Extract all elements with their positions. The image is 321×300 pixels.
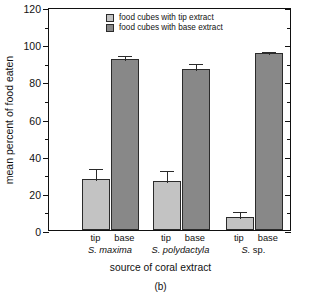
y-tick-100 [43, 46, 49, 47]
bar-smaxima-tip [82, 179, 110, 230]
y-tick-0 [43, 232, 49, 233]
x-bar-label-tip: tip [91, 234, 101, 243]
legend-label-tip: food cubes with tip extract [119, 14, 214, 22]
x-bar-label-tip: tip [234, 234, 244, 243]
y-tick-label-60: 60 [29, 115, 41, 126]
y-tick-70 [45, 102, 49, 103]
error-bar-cap [262, 52, 276, 53]
y-tick-110 [45, 28, 49, 29]
x-bar-label-base: base [114, 234, 134, 243]
bar-spolydactyla-base [182, 69, 210, 230]
legend-swatch-tip-icon [106, 14, 114, 22]
error-bar-cap [160, 171, 174, 172]
error-bar-cap [118, 56, 132, 57]
y-tick-label-80: 80 [29, 78, 41, 89]
y-axis-title: mean percent of food eaten [1, 8, 17, 231]
x-bar-label-base: base [185, 234, 205, 243]
y-tick-30 [45, 176, 49, 177]
y-tick-right-80 [285, 83, 291, 84]
legend-label-base: food cubes with base extract [119, 24, 223, 32]
y-tick-right-50 [287, 139, 291, 140]
y-tick-label-100: 100 [23, 41, 41, 52]
y-tick-right-40 [285, 158, 291, 159]
x-group-label: S. maxima [88, 246, 132, 255]
y-tick-right-20 [285, 195, 291, 196]
plot-area: food cubes with tip extract food cubes w… [48, 8, 291, 231]
y-tick-80 [43, 83, 49, 84]
y-tick-right-60 [285, 121, 291, 122]
error-bar-cap [89, 169, 103, 170]
bar-smaxima-base [111, 59, 139, 230]
x-group-label: S. sp. [241, 246, 265, 255]
y-tick-label-120: 120 [23, 4, 41, 15]
y-tick-right-110 [287, 28, 291, 29]
x-bar-label-tip: tip [161, 234, 171, 243]
legend: food cubes with tip extract food cubes w… [106, 14, 223, 32]
y-tick-right-70 [287, 102, 291, 103]
y-tick-right-100 [285, 46, 291, 47]
error-bar-cap [189, 64, 203, 65]
legend-swatch-base-icon [106, 24, 114, 32]
y-tick-10 [45, 213, 49, 214]
bar-spolydactyla-tip [153, 181, 181, 230]
error-bar-cap [233, 212, 247, 213]
y-tick-right-90 [287, 65, 291, 66]
figure-panel-b: mean percent of food eaten food cubes wi… [0, 0, 321, 300]
y-tick-90 [45, 65, 49, 66]
y-tick-right-10 [287, 213, 291, 214]
x-axis-title: source of coral extract [0, 262, 321, 273]
y-tick-50 [45, 139, 49, 140]
y-tick-right-0 [285, 232, 291, 233]
error-bar-stem [167, 171, 168, 183]
legend-item-tip: food cubes with tip extract [106, 14, 223, 22]
error-bar-stem [96, 169, 97, 181]
y-axis-title-text: mean percent of food eaten [3, 55, 15, 183]
y-tick-label-0: 0 [35, 227, 41, 238]
legend-item-base: food cubes with base extract [106, 24, 223, 32]
x-group-label: S. polydactyla [151, 246, 209, 255]
y-tick-40 [43, 158, 49, 159]
y-tick-120 [43, 9, 49, 10]
bar-ssp-base [255, 53, 283, 230]
error-bar-stem [196, 64, 197, 71]
y-tick-right-30 [287, 176, 291, 177]
y-tick-60 [43, 121, 49, 122]
figure-caption: (b) [0, 281, 321, 292]
y-tick-right-120 [285, 9, 291, 10]
x-bar-label-base: base [258, 234, 278, 243]
y-tick-label-20: 20 [29, 190, 41, 201]
y-tick-20 [43, 195, 49, 196]
y-tick-label-40: 40 [29, 152, 41, 163]
